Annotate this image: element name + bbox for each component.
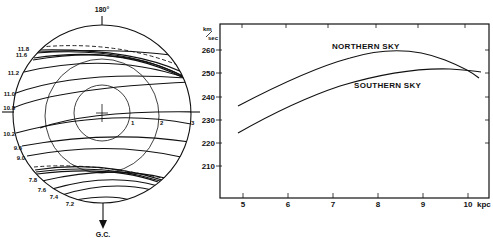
- contour-label: 11.6: [16, 52, 28, 58]
- x-tick-label: 5: [241, 200, 246, 209]
- y-tick-label: 250: [202, 69, 216, 78]
- circular-diagram: 180°: [2, 6, 200, 238]
- contour-label: 11.0: [4, 91, 16, 97]
- northern-sky-curve: [238, 51, 479, 106]
- contour-label: 10.2: [3, 131, 15, 137]
- contour-curves: [13, 46, 200, 200]
- x-tick-label: 9: [421, 200, 426, 209]
- rotation-curve-chart: km sec 260 250 240 230 220 210 5 6 7: [202, 24, 492, 209]
- x-tick-label: 7: [331, 200, 336, 209]
- southern-sky-curve: [238, 69, 481, 133]
- contour-label: 7.6: [38, 187, 47, 193]
- contour-label: 7.2: [66, 201, 75, 207]
- y-axis-unit-top: km: [203, 26, 212, 32]
- y-tick-label: 240: [202, 93, 216, 102]
- ring-label-2: 2: [160, 120, 164, 126]
- contour-label: 11.2: [8, 70, 20, 76]
- down-arrow-icon: [99, 220, 107, 229]
- y-axis-ticks: [216, 50, 489, 166]
- title-180: 180°: [95, 6, 110, 13]
- ring-label-3: 3: [191, 120, 195, 126]
- gc-label: G.C.: [96, 231, 110, 238]
- contour-label: 9.0: [17, 155, 26, 161]
- contour-label: 9.6: [14, 145, 23, 151]
- y-tick-label: 220: [202, 139, 216, 148]
- y-tick-label: 260: [202, 46, 216, 55]
- y-tick-label: 210: [202, 162, 216, 171]
- contour-label: 10.8: [3, 105, 15, 111]
- figure: 180°: [0, 0, 493, 238]
- x-axis-unit: kpc: [477, 200, 491, 209]
- y-tick-label: 230: [202, 116, 216, 125]
- y-axis-unit-bottom: sec: [208, 35, 219, 41]
- contour-label: 7.4: [50, 194, 59, 200]
- x-tick-label: 6: [286, 200, 291, 209]
- x-tick-label: 10: [464, 200, 473, 209]
- ring-label-1: 1: [131, 120, 135, 126]
- contour-label: 7.8: [29, 177, 38, 183]
- southern-sky-label: SOUTHERN SKY: [354, 81, 422, 90]
- northern-sky-label: NORTHERN SKY: [332, 42, 400, 51]
- x-tick-label: 8: [376, 200, 381, 209]
